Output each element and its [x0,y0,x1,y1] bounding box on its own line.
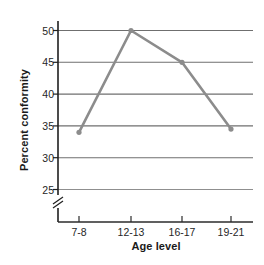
data-point-19-21 [228,127,233,132]
line-chart-figure: Percent conformity Age level 50 45 40 35… [0,0,264,265]
axis-break-icon [53,195,64,208]
data-point-7-8 [76,130,81,135]
data-point-12-13 [128,28,133,33]
data-point-16-17 [179,60,184,65]
gridlines [58,31,253,190]
data-line-percent-conformity [79,31,231,133]
x-tick-marks [79,216,231,222]
plot-area [0,0,264,265]
